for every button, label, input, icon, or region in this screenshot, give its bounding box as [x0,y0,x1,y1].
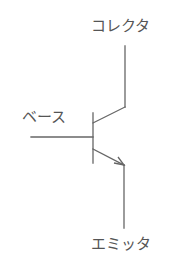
emitter-label: エミッタ [91,237,151,252]
emitter-diagonal [93,149,124,165]
collector-diagonal [93,107,125,123]
base-label: ベース [22,110,66,125]
npn-transistor-diagram: コレクタ ベース エミッタ [0,0,173,266]
collector-label: コレクタ [91,19,150,34]
transistor-symbol [0,0,173,266]
